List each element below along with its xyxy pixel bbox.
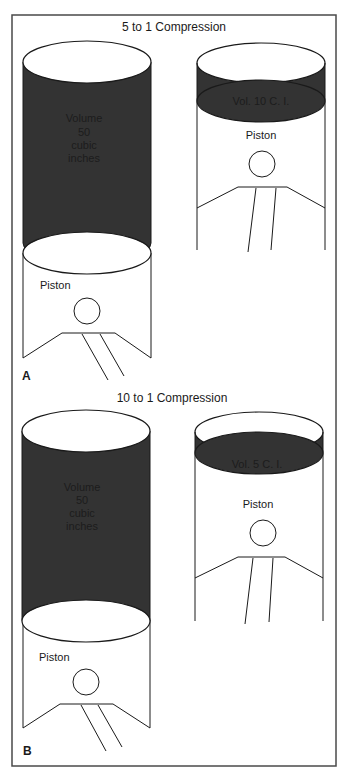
- volume-line: Volume: [64, 481, 101, 493]
- cylinder-top-ellipse: [23, 41, 151, 83]
- wrist-pin: [74, 298, 100, 324]
- panel-b-label: B: [23, 744, 32, 758]
- panel-a-title: 5 to 1 Compression: [122, 20, 226, 34]
- wrist-pin: [73, 669, 99, 695]
- volume-line: Volume: [66, 112, 103, 124]
- piston-label: Piston: [40, 279, 71, 291]
- volume-line: inches: [68, 152, 100, 164]
- piston-top-ellipse: [22, 600, 150, 642]
- piston-label: Piston: [243, 498, 274, 510]
- volume-line: inches: [66, 520, 98, 532]
- volume-line: cubic: [71, 139, 97, 151]
- panel-a-left-cylinder: Volume 50 cubic inches Piston: [23, 41, 151, 380]
- wrist-pin: [250, 520, 276, 546]
- volume-line: 50: [76, 494, 88, 506]
- panel-b-title: 10 to 1 Compression: [117, 391, 228, 405]
- piston-top-ellipse: [23, 232, 151, 274]
- volume-line: cubic: [69, 507, 95, 519]
- compression-ratio-diagram: 5 to 1 Compression Volume 50 cubic inche…: [0, 0, 340, 773]
- volume-label: Vol. 10 C. I.: [233, 95, 290, 107]
- cylinder-top-ellipse: [197, 43, 325, 83]
- piston-label: Piston: [246, 129, 277, 141]
- piston-label: Piston: [39, 651, 70, 663]
- volume-label: Vol. 5 C. I.: [232, 458, 283, 470]
- volume-line: 50: [78, 126, 90, 138]
- panel-a-label: A: [22, 369, 31, 383]
- wrist-pin: [249, 151, 275, 177]
- panel-b-left-cylinder: Volume 50 cubic inches Piston: [22, 410, 150, 751]
- cylinder-top-ellipse: [22, 410, 150, 452]
